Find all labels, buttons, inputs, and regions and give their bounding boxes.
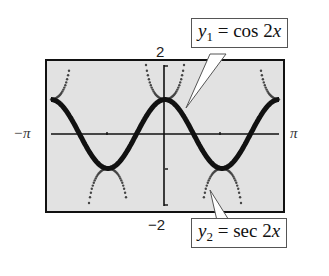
x-max-label: π xyxy=(290,126,298,141)
callout-y2-sec: y2 = sec 2x xyxy=(191,218,287,248)
x-min-label: −π xyxy=(13,126,31,141)
y-max-label: 2 xyxy=(156,44,164,59)
callout-y1-cos: y1 = cos 2x xyxy=(191,18,288,48)
y-min-label: −2 xyxy=(148,217,165,232)
